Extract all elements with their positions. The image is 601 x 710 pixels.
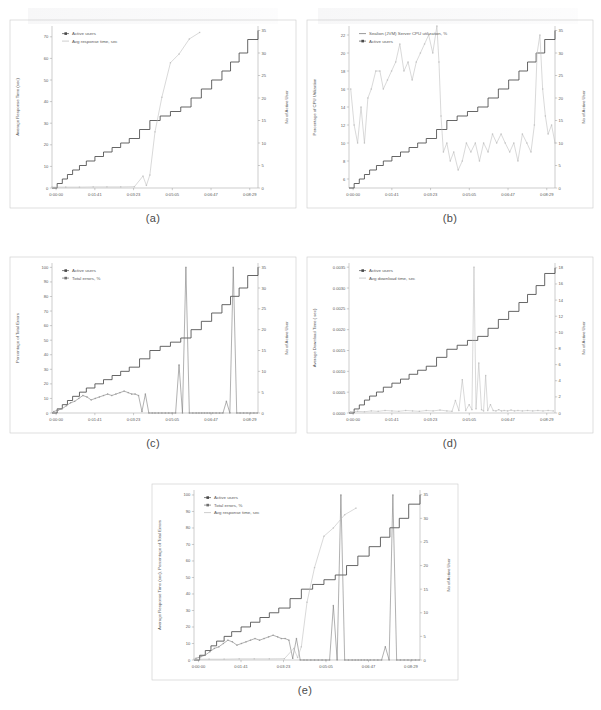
- data-point-marker: [379, 70, 380, 71]
- legend-label: Total errors, %: [72, 276, 100, 281]
- data-point-marker: [513, 142, 514, 143]
- data-point-marker: [475, 142, 476, 143]
- legend-swatch-marker: [64, 32, 67, 35]
- data-point-marker: [517, 410, 518, 411]
- y2-axis-label: No of Active User: [581, 90, 586, 124]
- data-point-marker: [246, 412, 247, 413]
- data-point-marker: [134, 186, 135, 187]
- data-point-marker: [479, 160, 480, 161]
- data-point-marker: [367, 97, 368, 98]
- x-tick-label: 0:01:41: [234, 664, 248, 669]
- data-point-marker: [250, 412, 251, 413]
- y-tick-label: 18: [341, 69, 346, 74]
- data-point-marker: [208, 659, 209, 660]
- legend-item[interactable]: Total errors, %: [62, 276, 100, 281]
- y2-tick-label: 0: [424, 658, 427, 663]
- legend-item[interactable]: Avg response time, sec: [62, 39, 118, 44]
- data-point-marker: [207, 412, 208, 413]
- data-point-marker: [168, 412, 169, 413]
- data-point-marker: [204, 412, 205, 413]
- y-tick-label: 12: [341, 123, 346, 128]
- data-point-marker: [500, 133, 501, 134]
- data-point-marker: [120, 186, 121, 187]
- data-point-marker: [333, 605, 334, 606]
- data-point-marker: [95, 398, 96, 399]
- y2-tick-label: 6: [559, 362, 562, 367]
- legend-item[interactable]: Sealion (JVM) Server CPU utilization, %: [359, 31, 447, 36]
- legend-item[interactable]: Active users: [62, 31, 97, 36]
- series-line-marker: [54, 267, 258, 413]
- data-point-marker: [250, 640, 251, 641]
- chart-svg-a: 010203040506070051015202530350:00:000:01…: [8, 18, 298, 210]
- data-point-marker: [371, 410, 372, 411]
- data-point-marker: [381, 659, 382, 660]
- y-tick-label: 0.0020: [333, 327, 346, 332]
- data-point-marker: [333, 527, 334, 528]
- data-point-marker: [222, 412, 223, 413]
- data-point-marker: [232, 641, 233, 642]
- chart-svg-b: 6810121416182022051015202530350:00:000:0…: [305, 18, 595, 210]
- data-point-marker: [123, 391, 124, 392]
- x-tick-label: 0:05:05: [165, 417, 179, 422]
- data-point-marker: [300, 659, 301, 660]
- data-point-marker: [404, 659, 405, 660]
- y-tick-label: 0.0015: [333, 348, 346, 353]
- data-point-marker: [487, 151, 488, 152]
- data-point-marker: [526, 142, 527, 143]
- data-point-marker: [495, 410, 496, 411]
- data-point-marker: [490, 404, 491, 405]
- y2-tick-label: 30: [262, 286, 267, 291]
- legend-item[interactable]: Avg download time, sec: [359, 276, 416, 281]
- data-point-marker: [303, 659, 304, 660]
- legend-label: Avg download time, sec: [369, 276, 416, 281]
- chart-panel-d: 0.00000.00050.00100.00150.00200.00250.00…: [305, 255, 595, 455]
- data-point-marker: [470, 151, 471, 152]
- caption-c: (c): [8, 437, 298, 449]
- data-point-marker: [517, 160, 518, 161]
- y2-tick-label: 25: [559, 73, 564, 78]
- y2-tick-label: 10: [262, 141, 267, 146]
- series-step: [349, 31, 555, 189]
- data-point-marker: [530, 151, 531, 152]
- legend-item[interactable]: Active users: [359, 39, 394, 44]
- legend-item[interactable]: Total errors, %: [204, 503, 242, 508]
- y2-tick-label: 10: [424, 610, 429, 615]
- x-tick-label: 0:05:05: [319, 664, 333, 669]
- y-tick-label: 60: [44, 323, 49, 328]
- y2-axis-label: No of Active User: [284, 321, 289, 355]
- data-point-marker: [492, 133, 493, 134]
- data-point-marker: [383, 88, 384, 89]
- data-point-marker: [357, 142, 358, 143]
- legend-item[interactable]: Avg response time, sec: [204, 510, 260, 515]
- data-point-marker: [432, 52, 433, 53]
- y2-tick-label: 15: [262, 118, 267, 123]
- y-tick-label: 0.0035: [333, 265, 346, 270]
- x-tick-label: 0:08:29: [404, 664, 418, 669]
- legend-item[interactable]: Active users: [204, 495, 239, 500]
- data-point-marker: [223, 643, 224, 644]
- caption-d: (d): [305, 437, 595, 449]
- data-point-marker: [485, 375, 486, 376]
- y-tick-label: 10: [44, 164, 49, 169]
- y-axis-label: Average Download Time ( sec): [312, 308, 317, 367]
- data-point-marker: [487, 410, 488, 411]
- data-point-marker: [138, 395, 139, 396]
- data-point-marker: [236, 644, 237, 645]
- figure-c: 0102030405060708090100051015202530350:00…: [8, 255, 298, 455]
- y-tick-label: 0.0010: [333, 369, 346, 374]
- y-tick-label: 0: [188, 658, 191, 663]
- data-point-marker: [185, 267, 186, 268]
- y-tick-label: 80: [44, 294, 49, 299]
- legend-label: Active users: [214, 495, 239, 500]
- data-point-marker: [269, 658, 270, 659]
- data-point-marker: [355, 659, 356, 660]
- legend-item[interactable]: Active users: [62, 268, 97, 273]
- data-point-marker: [329, 659, 330, 660]
- data-point-marker: [90, 399, 91, 400]
- data-point-marker: [215, 412, 216, 413]
- legend-swatch-marker: [64, 277, 67, 280]
- legend-item[interactable]: Active users: [359, 268, 394, 273]
- chart-panel-b: 6810121416182022051015202530350:00:000:0…: [305, 18, 595, 233]
- y-tick-label: 60: [186, 558, 191, 563]
- data-point-marker: [466, 142, 467, 143]
